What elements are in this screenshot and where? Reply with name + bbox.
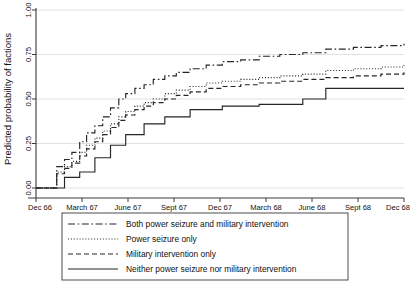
y-axis-title: Predicted probability of factions [2, 33, 13, 165]
series-line-2 [36, 65, 404, 188]
y-tick-label: 0.25 [24, 136, 33, 151]
x-tick-label: March 67 [66, 203, 98, 212]
x-tick-label: March 68 [250, 203, 282, 212]
y-axis-ticks: 0.000.250.500.751.00 [24, 3, 36, 196]
series-line-3 [36, 72, 404, 188]
y-tick-label: 0.00 [24, 181, 33, 196]
chart-figure: 0.000.250.500.751.00 Dec 66March 67June … [0, 0, 410, 284]
chart-legend: Both power seizure and military interven… [62, 213, 348, 280]
x-tick-label: June 68 [298, 203, 325, 212]
legend-label-3: Military intervention only [126, 249, 217, 259]
legend-label-1: Both power seizure and military interven… [126, 219, 289, 229]
x-tick-label: Dec 67 [208, 203, 232, 212]
legend-label-2: Power seizure only [126, 234, 198, 244]
y-tick-label: 0.75 [24, 47, 33, 62]
series-line-1 [36, 44, 404, 188]
x-axis-ticks: Dec 66March 67June 67Sept 67Dec 67March … [28, 198, 410, 212]
series-lines [36, 44, 404, 188]
gridlines [36, 10, 404, 188]
legend-label-4: Neither power seizure nor military inter… [126, 264, 297, 274]
y-axis-label: Predicted probability of factions [2, 33, 13, 165]
x-tick-label: Dec 68 [386, 203, 410, 212]
x-tick-label: Dec 66 [28, 203, 52, 212]
x-tick-label: June 67 [114, 203, 141, 212]
axes [28, 8, 404, 198]
x-tick-label: Sept 68 [345, 203, 371, 212]
y-tick-label: 1.00 [24, 3, 33, 18]
series-line-4 [36, 88, 404, 188]
chart-canvas: 0.000.250.500.751.00 Dec 66March 67June … [0, 0, 410, 284]
y-tick-label: 0.50 [24, 92, 33, 107]
x-tick-label: Sept 67 [161, 203, 187, 212]
